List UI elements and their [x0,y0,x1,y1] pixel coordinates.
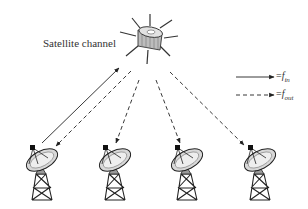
satellite-channel-label: Satellite channel [43,37,116,49]
downlink-arrow-4 [170,72,244,145]
legend-subscript: in [284,76,289,84]
satellite-icon [120,14,178,64]
downlink-arrow-2 [116,80,139,143]
downlink-arrow-3 [156,80,180,143]
diagram-canvas [0,0,308,209]
legend-subscript: out [284,94,293,102]
antenna-icon [168,144,206,200]
legend-entry-out: =fout [276,88,293,102]
legend-entry-in: =fin [276,70,290,84]
antenna-icon [23,144,61,200]
downlink-arrow-1 [56,71,131,146]
antenna-icon [241,144,279,200]
uplink-arrow [42,68,119,143]
downlink-arrows [56,71,244,146]
antenna-icon [96,144,134,200]
satellite-channel-diagram: Satellite channel =fin =fout [0,0,308,209]
